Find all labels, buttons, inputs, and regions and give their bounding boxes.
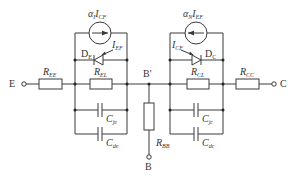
label-rel: REL	[94, 67, 107, 78]
current-arrow-icon	[101, 52, 106, 56]
current-arrow-icon	[189, 52, 194, 56]
node-b-prime	[148, 83, 151, 86]
label-rcc: RCC	[240, 67, 254, 78]
label-collector: C	[280, 79, 287, 89]
label-cdc: Cdc	[202, 138, 214, 149]
diode-dc	[192, 55, 201, 65]
resistor-rcc	[236, 79, 259, 89]
base-terminal	[147, 155, 151, 159]
label-diode-de: DE	[81, 49, 92, 60]
resistor-rel	[90, 79, 112, 89]
label-base: B	[145, 162, 152, 172]
resistor-rbb	[144, 103, 154, 130]
resistor-rcl	[187, 79, 209, 89]
collector-terminal	[272, 82, 276, 86]
diode-de	[94, 55, 103, 65]
label-alpha-n-ief: αNIEF	[183, 9, 203, 20]
label-ief: IEF	[112, 40, 123, 51]
circuit-diagram: E C B B' αIICF αNIEF DE IEF DC ICF REE R…	[0, 0, 297, 182]
label-cje: Cje	[106, 114, 117, 125]
label-icf: ICF	[172, 40, 183, 51]
label-cde: Cde	[106, 138, 118, 149]
label-cjc: Cjc	[202, 114, 213, 125]
emitter-terminal	[22, 82, 26, 86]
label-rbb: RBB	[156, 138, 169, 149]
label-internal-base: B'	[143, 69, 151, 79]
resistor-ree	[39, 79, 62, 89]
circuit-schematic	[0, 0, 297, 182]
label-emitter: E	[9, 79, 15, 89]
label-ree: REE	[43, 67, 56, 78]
label-rcl: RCL	[191, 67, 204, 78]
label-diode-dc: DC	[205, 49, 216, 60]
label-alpha-i-icf: αIICF	[88, 9, 106, 20]
